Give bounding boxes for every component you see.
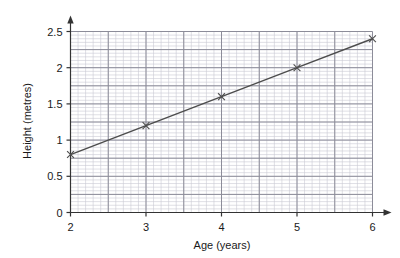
line-chart: 00.511.522.5 23456 Age (years) Height (m…	[0, 0, 400, 258]
x-tick-label: 6	[369, 221, 375, 233]
y-axis-title: Height (metres)	[21, 83, 33, 159]
x-axis-title: Age (years)	[194, 239, 251, 251]
chart-container: 00.511.522.5 23456 Age (years) Height (m…	[0, 0, 400, 258]
x-tick-label: 4	[218, 221, 224, 233]
x-tick-label: 2	[67, 221, 73, 233]
y-tick-label: 1	[56, 134, 62, 146]
y-tick-label: 2.5	[47, 26, 62, 38]
x-tick-label: 5	[294, 221, 300, 233]
y-tick-label: 0	[56, 207, 62, 219]
x-tick-label: 3	[143, 221, 149, 233]
y-tick-label: 2	[56, 62, 62, 74]
y-tick-label: 0.5	[47, 170, 62, 182]
y-tick-label: 1.5	[47, 98, 62, 110]
